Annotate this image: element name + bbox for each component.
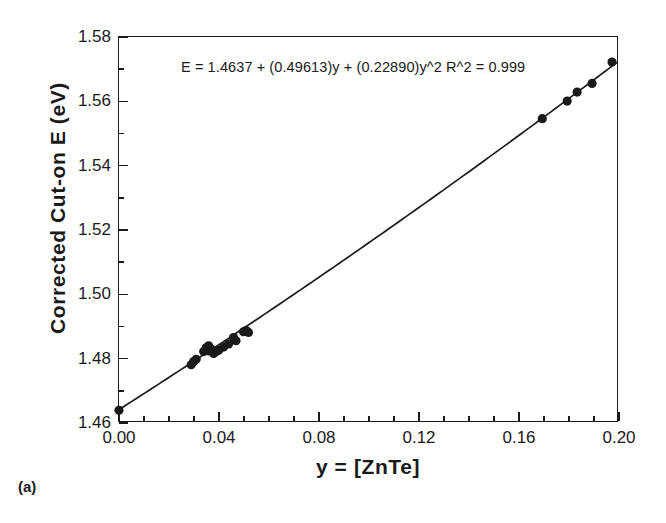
- x-axis-tick: [218, 412, 220, 421]
- y-axis-minor-tick: [119, 261, 124, 263]
- x-axis-tick-label: 0.16: [502, 428, 535, 448]
- y-axis-tick-label: 1.50: [78, 284, 111, 304]
- x-axis-tick: [418, 412, 420, 421]
- data-point: [192, 355, 201, 364]
- x-axis-minor-tick: [343, 416, 345, 421]
- y-axis-minor-tick: [119, 68, 124, 70]
- x-axis-minor-tick: [443, 416, 445, 421]
- data-point: [573, 88, 582, 97]
- x-axis-minor-tick: [568, 416, 570, 421]
- x-axis-minor-tick: [268, 416, 270, 421]
- panel-label: (a): [18, 478, 36, 495]
- data-point: [231, 336, 240, 345]
- y-axis-tick-label: 1.54: [78, 156, 111, 176]
- plot-area: E = 1.4637 + (0.49613)y + (0.22890)y^2 R…: [118, 36, 618, 422]
- y-axis-tick-label: 1.48: [78, 349, 111, 369]
- x-axis-title: y = [ZnTe]: [118, 455, 618, 479]
- x-axis-tick-label: 0.20: [602, 428, 635, 448]
- y-axis-tick: [119, 165, 128, 167]
- x-axis-tick-label: 0.12: [402, 428, 435, 448]
- x-axis-minor-tick: [393, 416, 395, 421]
- x-axis-tick: [318, 412, 320, 421]
- y-axis-tick: [119, 294, 128, 296]
- x-axis-minor-tick: [143, 416, 145, 421]
- y-axis-title: Corrected Cut-on E (eV): [46, 28, 70, 388]
- x-axis-minor-tick: [543, 416, 545, 421]
- data-point: [563, 96, 572, 105]
- data-point: [538, 114, 547, 123]
- x-axis-minor-tick: [593, 416, 595, 421]
- y-axis-tick: [119, 36, 128, 38]
- x-axis-minor-tick: [293, 416, 295, 421]
- data-point-group: [114, 57, 616, 414]
- y-axis-minor-tick: [119, 197, 124, 199]
- y-axis-minor-tick: [119, 133, 124, 135]
- x-axis-minor-tick: [468, 416, 470, 421]
- x-axis-minor-tick: [368, 416, 370, 421]
- x-axis-tick-label: 0.00: [102, 428, 135, 448]
- x-axis-tick-label: 0.08: [302, 428, 335, 448]
- x-axis-minor-tick: [168, 416, 170, 421]
- y-axis-tick: [119, 422, 128, 424]
- x-axis-minor-tick: [493, 416, 495, 421]
- x-axis-tick: [118, 412, 120, 421]
- data-layer: [119, 37, 617, 421]
- data-point: [244, 328, 253, 337]
- y-axis-minor-tick: [119, 326, 124, 328]
- y-axis-minor-tick: [119, 390, 124, 392]
- y-axis-tick: [119, 101, 128, 103]
- x-axis-tick-label: 0.04: [202, 428, 235, 448]
- x-axis-minor-tick: [243, 416, 245, 421]
- x-axis-tick: [618, 412, 620, 421]
- y-axis-tick-label: 1.58: [78, 27, 111, 47]
- data-point: [607, 57, 616, 66]
- figure-panel: Corrected Cut-on E (eV) y = [ZnTe] (a) E…: [0, 0, 666, 523]
- y-axis-tick: [119, 358, 128, 360]
- data-point: [588, 79, 597, 88]
- y-axis-tick-label: 1.56: [78, 91, 111, 111]
- x-axis-tick: [518, 412, 520, 421]
- y-axis-tick-label: 1.52: [78, 220, 111, 240]
- y-axis-tick: [119, 229, 128, 231]
- x-axis-minor-tick: [193, 416, 195, 421]
